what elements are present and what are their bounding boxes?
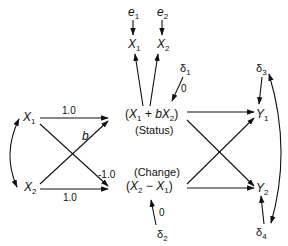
node-change-label: (Change) bbox=[134, 166, 180, 178]
path-diagram: e1 X1 e2 X2 δ1 0 (X1 + bX2) (Status) (Ch… bbox=[0, 0, 288, 246]
arrow-change-y1 bbox=[187, 118, 254, 184]
node-x2-left: X2 bbox=[23, 180, 37, 196]
arrow-status-x1 bbox=[135, 54, 143, 106]
arrow-delta4-y2 bbox=[261, 196, 264, 224]
arrow-delta2-change bbox=[151, 200, 156, 225]
arrow-status-y2 bbox=[187, 120, 254, 186]
coef-delta1: 0 bbox=[181, 83, 187, 94]
node-e2: e2 bbox=[157, 5, 169, 21]
node-y1: Y1 bbox=[256, 107, 269, 123]
coef-x1-change: -1.0 bbox=[98, 169, 116, 180]
coef-x2-change: 1.0 bbox=[63, 192, 77, 203]
node-change-expr: (X2 − X1) bbox=[126, 179, 173, 195]
covariance-x1-x2 bbox=[10, 119, 19, 187]
node-x1-left: X1 bbox=[22, 110, 36, 126]
coef-x2-status: b bbox=[82, 129, 89, 143]
node-delta1: δ1 bbox=[180, 62, 191, 77]
coef-delta2: 0 bbox=[159, 207, 165, 218]
node-delta3: δ3 bbox=[256, 62, 267, 77]
node-status-expr: (X1 + bX2) bbox=[125, 107, 178, 123]
node-e1: e1 bbox=[128, 5, 140, 21]
node-status-label: (Status) bbox=[135, 124, 174, 136]
node-y2: Y2 bbox=[256, 181, 269, 197]
node-x2-top: X2 bbox=[156, 37, 170, 53]
covariance-delta3-delta4 bbox=[269, 74, 281, 223]
node-delta4: δ4 bbox=[256, 226, 267, 241]
coef-x1-status: 1.0 bbox=[62, 105, 76, 116]
node-x1-top: X1 bbox=[127, 37, 141, 53]
arrow-delta3-y1 bbox=[259, 77, 262, 104]
arrow-status-x2 bbox=[150, 54, 158, 106]
node-delta2: δ2 bbox=[157, 228, 168, 243]
